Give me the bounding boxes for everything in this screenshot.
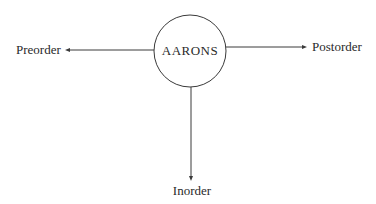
arrowhead-right-icon <box>302 45 307 49</box>
center-node: AARONS <box>154 15 226 87</box>
branch-preorder: Preorder <box>16 42 154 57</box>
branch-inorder: Inorder <box>173 87 212 198</box>
traversal-diagram: AARONS Preorder Postorder Inorder <box>0 0 376 204</box>
node-label: AARONS <box>162 43 218 58</box>
arrowhead-left-icon <box>65 48 70 52</box>
branch-label-inorder: Inorder <box>173 183 212 198</box>
branch-postorder: Postorder <box>226 39 363 54</box>
branch-label-postorder: Postorder <box>312 39 363 54</box>
arrowhead-down-icon <box>189 176 193 181</box>
branch-label-preorder: Preorder <box>16 42 61 57</box>
